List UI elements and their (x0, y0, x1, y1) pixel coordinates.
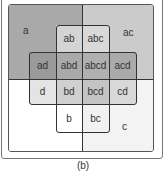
label-c: c (122, 121, 127, 132)
universe-rect: ab abc ad abd abcd acd d bd bcd cd b bc … (8, 4, 154, 152)
label-ac: ac (123, 27, 134, 38)
label-a: a (23, 25, 29, 36)
figure-caption: (b) (0, 160, 166, 171)
set-d-rect (29, 52, 137, 105)
